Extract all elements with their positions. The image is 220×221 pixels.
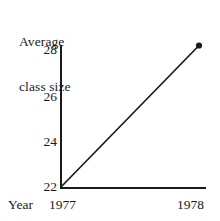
line-chart: Average class size 28 26 24 22 Year 1977…	[0, 0, 220, 221]
data-series-line	[61, 46, 199, 188]
plot-area	[0, 0, 220, 221]
data-point-marker	[196, 42, 202, 48]
